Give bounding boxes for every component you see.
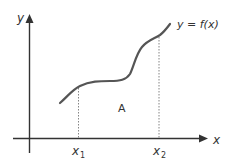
function-curve	[60, 24, 170, 103]
y-axis-label: y	[16, 11, 25, 25]
x1-subscript: 1	[80, 151, 85, 160]
x2-subscript: 2	[161, 151, 166, 160]
x1-label: x	[71, 144, 80, 158]
function-label: y = f(x)	[176, 18, 219, 31]
x2-label: x	[152, 144, 161, 158]
x-axis-arrow-icon	[199, 135, 208, 143]
area-under-curve-diagram: y x y = f(x) A x 1 x 2	[0, 0, 238, 167]
area-label: A	[118, 102, 126, 115]
y-axis-arrow-icon	[26, 14, 34, 23]
x-axis-label: x	[212, 133, 221, 147]
